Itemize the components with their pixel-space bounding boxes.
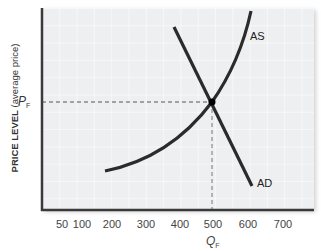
ad-label: AD: [257, 177, 272, 189]
x-tick: 400: [171, 218, 189, 230]
qf-label: QF: [206, 234, 220, 249]
x-tick: 500: [204, 218, 222, 230]
as-label: AS: [250, 30, 265, 42]
y-axis-label-bold: PRICE LEVEL: [9, 110, 20, 172]
x-tick: 600: [239, 218, 257, 230]
x-tick: 300: [137, 218, 155, 230]
x-tick: 100: [73, 218, 91, 230]
x-tick: 50: [56, 218, 68, 230]
x-tick: 200: [103, 218, 121, 230]
x-tick: 700: [274, 218, 292, 230]
chart-canvas: [0, 0, 321, 251]
pf-label: PF: [18, 94, 30, 109]
equilibrium-point: [209, 99, 216, 106]
